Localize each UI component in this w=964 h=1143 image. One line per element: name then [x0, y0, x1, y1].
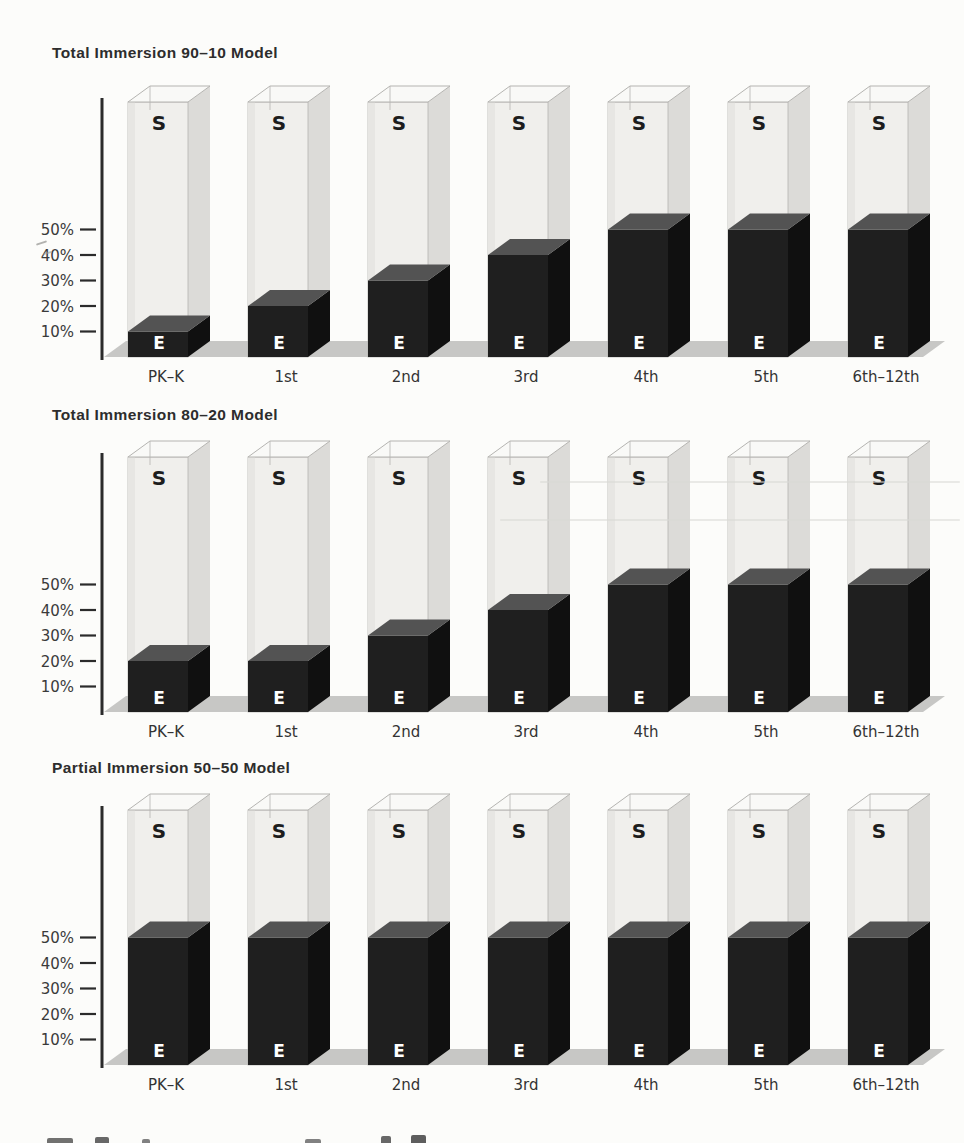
- y-tick-mark: [80, 1038, 96, 1040]
- y-tick-mark: [80, 685, 96, 687]
- english-bar-side: [428, 922, 450, 1066]
- bar-group: SE1st: [248, 441, 330, 741]
- english-bar-side: [788, 922, 810, 1066]
- category-label: 3rd: [514, 1076, 539, 1094]
- english-bar-side: [908, 569, 930, 713]
- bar-group: SE5th: [728, 794, 810, 1094]
- english-bar-side: [188, 922, 210, 1066]
- cropped-text-fragment: [411, 1135, 426, 1143]
- category-label: 4th: [634, 723, 659, 741]
- y-tick-label: 50%: [41, 576, 74, 594]
- english-bar-label: E: [153, 688, 165, 708]
- spanish-bar-left-shade: [128, 102, 135, 357]
- y-tick-label: 30%: [41, 980, 74, 998]
- english-bar-side: [668, 214, 690, 358]
- y-tick-label: 50%: [41, 221, 74, 239]
- english-bar-label: E: [873, 333, 885, 353]
- y-tick-mark: [80, 660, 96, 662]
- category-label: 2nd: [392, 723, 421, 741]
- y-axis-line: [101, 453, 104, 715]
- scan-streak: [540, 481, 960, 483]
- cropped-text-fragment: [47, 1138, 73, 1143]
- category-label: 3rd: [514, 723, 539, 741]
- cropped-text-fragment: [381, 1136, 391, 1143]
- category-label: 6th–12th: [853, 723, 920, 741]
- category-label: 6th–12th: [853, 1076, 920, 1094]
- category-label: 1st: [274, 1076, 297, 1094]
- y-axis-line: [101, 98, 104, 360]
- english-bar-label: E: [873, 688, 885, 708]
- english-bar-side: [668, 922, 690, 1066]
- chart-80-20-model: 50%40%30%20%10%SEPK–KSE1stSE2ndSE3rdSE4t…: [0, 437, 964, 749]
- y-tick-label: 50%: [41, 929, 74, 947]
- y-tick-label: 30%: [41, 272, 74, 290]
- english-bar-label: E: [393, 688, 405, 708]
- english-bar-side: [548, 594, 570, 712]
- bar-group: SEPK–K: [128, 794, 210, 1094]
- spanish-bar-label: S: [872, 111, 886, 135]
- y-tick-label: 40%: [41, 602, 74, 620]
- english-bar-label: E: [873, 1041, 885, 1061]
- scanned-book-page: { "colors": { "axis": "#2b2b2b", "floor"…: [0, 0, 964, 1143]
- english-bar-side: [428, 620, 450, 713]
- category-label: PK–K: [148, 368, 185, 386]
- english-bar-side: [788, 569, 810, 713]
- english-bar-label: E: [753, 1041, 765, 1061]
- english-bar-side: [908, 922, 930, 1066]
- english-bar-side: [428, 265, 450, 358]
- y-tick-mark: [80, 1013, 96, 1015]
- bar-group: SE3rd: [488, 441, 570, 741]
- category-label: PK–K: [148, 723, 185, 741]
- english-bar-label: E: [153, 333, 165, 353]
- y-axis-line: [101, 806, 104, 1068]
- bar-group: SE3rd: [488, 86, 570, 386]
- y-tick-mark: [80, 305, 96, 307]
- bar-group: SE6th–12th: [848, 441, 930, 741]
- spanish-bar-label: S: [872, 466, 886, 490]
- english-bar-label: E: [393, 333, 405, 353]
- spanish-bar-label: S: [272, 111, 286, 135]
- y-tick-label: 10%: [41, 678, 74, 696]
- spanish-bar-label: S: [632, 111, 646, 135]
- y-tick-label: 10%: [41, 1031, 74, 1049]
- english-bar-label: E: [513, 333, 525, 353]
- english-bar-label: E: [633, 1041, 645, 1061]
- chart-title-90-10: Total Immersion 90–10 Model: [52, 44, 278, 62]
- category-label: 5th: [754, 723, 779, 741]
- bar-group: SE6th–12th: [848, 86, 930, 386]
- y-tick-mark: [80, 583, 96, 585]
- cropped-text-fragment: [142, 1139, 150, 1143]
- spanish-bar-label: S: [752, 819, 766, 843]
- category-label: 6th–12th: [853, 368, 920, 386]
- y-tick-mark: [80, 987, 96, 989]
- bar-group: SE4th: [608, 86, 690, 386]
- cropped-text-fragment: [95, 1137, 109, 1143]
- bar-group: SE4th: [608, 441, 690, 741]
- category-label: 2nd: [392, 1076, 421, 1094]
- spanish-bar-label: S: [632, 819, 646, 843]
- spanish-bar-label: S: [512, 466, 526, 490]
- spanish-bar-label: S: [152, 466, 166, 490]
- category-label: 1st: [274, 368, 297, 386]
- y-tick-mark: [80, 228, 96, 230]
- english-bar-label: E: [273, 333, 285, 353]
- y-tick-mark: [80, 609, 96, 611]
- bar-group: SEPK–K: [128, 86, 210, 386]
- spanish-bar-label: S: [752, 466, 766, 490]
- category-label: 2nd: [392, 368, 421, 386]
- english-bar-label: E: [393, 1041, 405, 1061]
- bar-group: SE2nd: [368, 794, 450, 1094]
- y-tick-mark: [80, 962, 96, 964]
- category-label: 4th: [634, 1076, 659, 1094]
- spanish-bar-label: S: [872, 819, 886, 843]
- chart-50-50-model: 50%40%30%20%10%SEPK–KSE1stSE2ndSE3rdSE4t…: [0, 790, 964, 1102]
- english-bar-label: E: [513, 1041, 525, 1061]
- cropped-text-fragment: [305, 1139, 321, 1143]
- english-bar-label: E: [513, 688, 525, 708]
- spanish-bar-label: S: [392, 466, 406, 490]
- english-bar-side: [668, 569, 690, 713]
- spanish-bar-label: S: [392, 819, 406, 843]
- bar-group: SE5th: [728, 441, 810, 741]
- english-bar-side: [548, 239, 570, 357]
- bar-group: SE1st: [248, 86, 330, 386]
